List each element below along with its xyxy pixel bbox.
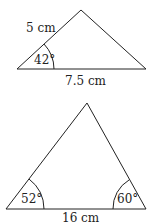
- angle-label: 42°: [34, 53, 55, 67]
- left-angle-label: 52°: [21, 192, 42, 206]
- triangle-1: 5 cm 42° 7.5 cm: [17, 10, 146, 88]
- diagram: 5 cm 42° 7.5 cm 52° 60° 16 cm: [0, 0, 153, 223]
- side-label: 5 cm: [26, 21, 56, 35]
- base-label: 7.5 cm: [65, 74, 107, 88]
- base-label: 16 cm: [62, 211, 100, 223]
- triangle-2: 52° 60° 16 cm: [6, 103, 146, 223]
- right-angle-label: 60°: [117, 192, 138, 206]
